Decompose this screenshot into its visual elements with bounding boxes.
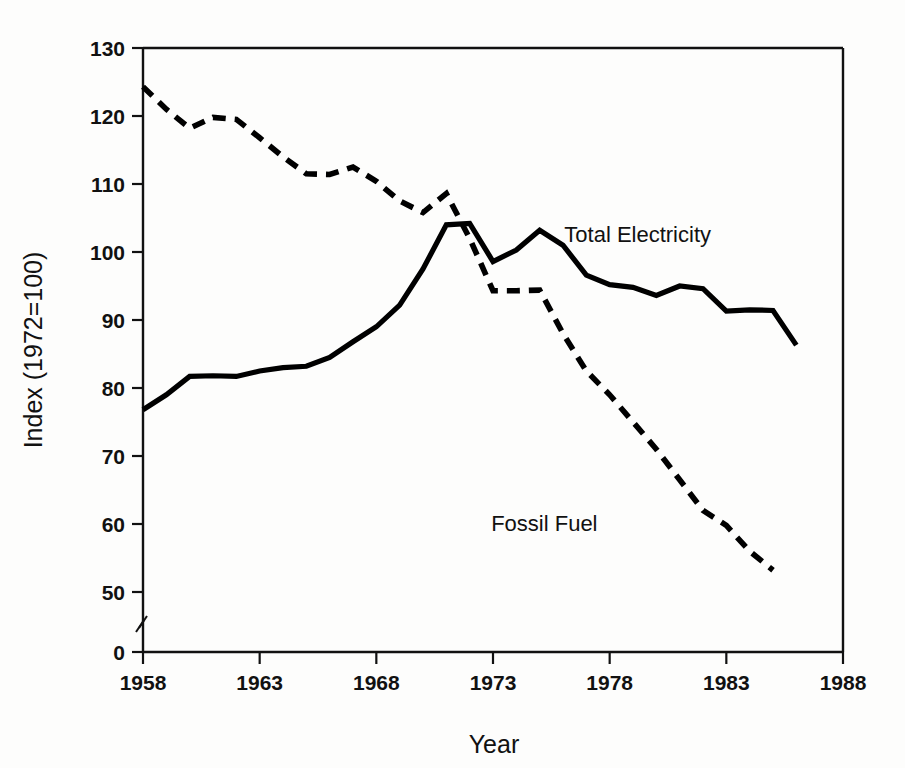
y-tick-label: 0	[113, 641, 125, 664]
y-axis-ticks: 13012011010090807060500	[90, 37, 143, 664]
y-tick-label: 50	[102, 581, 125, 604]
y-tick-label: 60	[102, 513, 125, 536]
x-tick-label: 1963	[236, 671, 283, 694]
chart-figure: 13012011010090807060500 1958196319681973…	[0, 0, 905, 768]
y-axis-break-mark	[136, 616, 147, 632]
x-tick-label: 1978	[586, 671, 633, 694]
series-line-fossil-fuel	[143, 87, 773, 570]
plot-frame	[143, 48, 843, 652]
x-tick-label: 1973	[470, 671, 517, 694]
y-tick-label: 100	[90, 241, 125, 264]
axis-frame-path	[143, 48, 843, 652]
y-tick-label: 90	[102, 309, 125, 332]
data-series-group	[143, 87, 796, 570]
y-tick-label: 80	[102, 377, 125, 400]
series-line-total-electricity	[143, 223, 796, 409]
x-tick-label: 1968	[353, 671, 400, 694]
y-tick-label: 110	[91, 173, 125, 196]
x-axis-title: Year	[469, 730, 520, 758]
y-tick-label: 130	[90, 37, 125, 60]
x-tick-label: 1988	[820, 671, 867, 694]
series-label-fossil-fuel: Fossil Fuel	[491, 511, 597, 536]
y-tick-label: 120	[90, 105, 125, 128]
series-label-total-electricity: Total Electricity	[564, 222, 711, 247]
x-tick-label: 1983	[703, 671, 750, 694]
x-tick-label: 1958	[120, 671, 167, 694]
y-tick-label: 70	[102, 445, 125, 468]
y-axis-title: Index (1972=100)	[19, 252, 47, 449]
line-chart-svg: 13012011010090807060500 1958196319681973…	[0, 0, 905, 768]
x-axis-ticks: 1958196319681973197819831988	[120, 652, 867, 694]
